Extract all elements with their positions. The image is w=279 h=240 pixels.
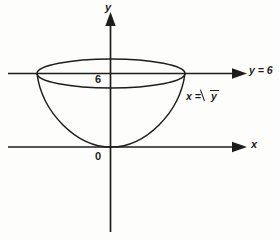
curve-equation-label: x =y [186,90,219,102]
x-axis-label-text: x [251,138,257,150]
square-root-icon: y [201,90,219,102]
origin-0-text: 0 [95,150,101,162]
line-label-y-equals-6: y = 6 [249,65,273,76]
y-axis-label: y [105,2,111,13]
diagram-canvas [0,0,279,240]
y-axis-label-text: y [105,1,111,13]
line-label-text: y = 6 [249,64,273,76]
y-tick-6-text: 6 [95,73,101,85]
figure-container: y = 6 x y 6 0 x =y [0,0,279,240]
arrowhead-y-equals-6 [232,68,247,78]
radical-stroke [203,90,209,101]
bowl-wall-right [111,74,185,148]
x-axis-label: x [251,139,257,150]
y-tick-label-6: 6 [95,74,101,85]
curve-equation-radicand: y [210,90,219,102]
origin-label-0: 0 [95,151,101,162]
arrowhead-y-axis [105,12,115,26]
curve-equation-lhs: x = [186,90,201,102]
arrowhead-x-axis [232,142,247,152]
